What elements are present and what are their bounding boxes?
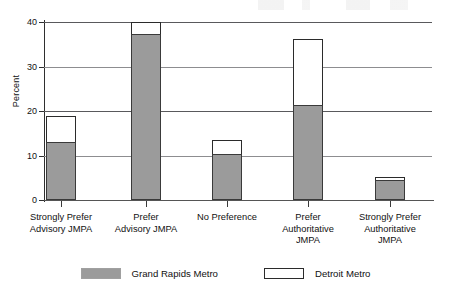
y-axis-title: Percent	[11, 61, 21, 121]
y-tick-mark	[39, 22, 44, 23]
bar-grand-rapids	[212, 154, 242, 200]
plot-area: 010203040 Strongly PreferAdvisory JMPAPr…	[44, 22, 432, 200]
legend-label: Detroit Metro	[315, 268, 370, 279]
bar-group	[293, 22, 323, 200]
y-tick-label: 20	[27, 106, 37, 116]
x-tick-label-line: JMPA	[325, 235, 451, 247]
x-tick-mark	[146, 201, 147, 207]
legend-entry: Detroit Metro	[264, 268, 370, 279]
gray-filled-swatch	[81, 268, 121, 279]
chart-legend: Grand Rapids MetroDetroit Metro	[0, 262, 451, 284]
bar-grand-rapids	[131, 34, 161, 200]
bar-grand-rapids	[293, 105, 323, 200]
scan-artifact	[250, 0, 450, 10]
white-outlined-swatch	[264, 268, 304, 279]
x-tick-label: Strongly PreferAuthoritativeJMPA	[325, 212, 451, 247]
legend-entry: Grand Rapids Metro	[81, 268, 218, 279]
y-tick-mark	[39, 67, 44, 68]
legend-label: Grand Rapids Metro	[132, 268, 218, 279]
x-tick-mark	[227, 201, 228, 207]
x-tick-label-line: Strongly Prefer	[325, 212, 451, 224]
x-tick-mark	[61, 201, 62, 207]
y-tick-label: 30	[27, 62, 37, 72]
y-tick-mark	[39, 156, 44, 157]
y-tick-label: 10	[27, 151, 37, 161]
x-tick-label-line: Authoritative	[325, 224, 451, 236]
bar-group	[131, 22, 161, 200]
bar-chart-figure: Percent 010203040 Strongly PreferAdvisor…	[0, 0, 451, 292]
bar-group	[46, 22, 76, 200]
x-tick-mark	[308, 201, 309, 207]
x-tick-mark	[390, 201, 391, 207]
y-tick-label: 40	[27, 17, 37, 27]
bar-grand-rapids	[375, 180, 405, 200]
bar-group	[375, 22, 405, 200]
x-axis-spine	[40, 200, 434, 201]
y-tick-label: 0	[32, 195, 37, 205]
x-tick-label-line: Advisory JMPA	[81, 224, 211, 236]
y-tick-mark	[39, 200, 44, 201]
bar-group	[212, 22, 242, 200]
bar-grand-rapids	[46, 142, 76, 200]
y-tick-mark	[39, 111, 44, 112]
